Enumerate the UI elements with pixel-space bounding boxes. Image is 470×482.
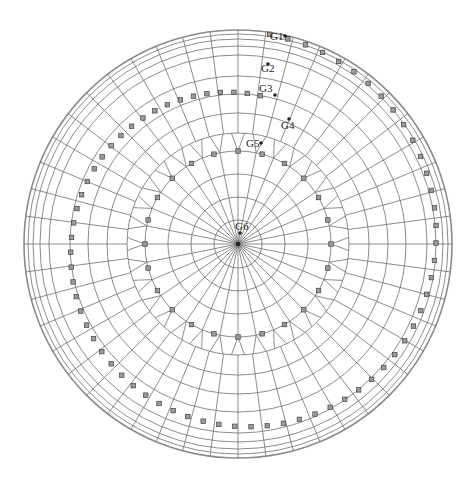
node-marker-icon: [71, 280, 76, 285]
node-marker-icon: [205, 91, 210, 96]
node-marker-icon: [316, 195, 321, 200]
node-marker-icon: [69, 265, 74, 270]
mesh-spoke: [87, 93, 160, 166]
mesh-transition-element: [128, 259, 147, 272]
node-marker-icon: [212, 152, 217, 157]
mesh-transition-element: [142, 296, 160, 311]
node-marker-icon: [402, 339, 407, 344]
node-marker-icon: [245, 91, 250, 96]
node-marker-icon: [189, 161, 194, 166]
node-marker-icon: [100, 349, 105, 354]
node-marker-icon: [424, 171, 429, 176]
mesh-transition-element: [253, 335, 266, 354]
mesh-diagram: G1 G2 G3 G4 G5 G6: [0, 0, 470, 482]
node-marker-icon: [68, 250, 73, 255]
node-marker-icon: [429, 188, 434, 193]
mesh-transition-element: [171, 321, 186, 339]
node-marker-icon: [265, 423, 270, 428]
node-marker-icon: [155, 288, 160, 293]
node-marker-icon: [425, 292, 430, 297]
node-marker-icon: [356, 388, 361, 393]
node-marker-icon: [381, 365, 386, 370]
gauge-dot-icon: [273, 93, 277, 97]
node-marker-icon: [131, 383, 136, 388]
node-marker-icon: [329, 242, 334, 247]
mesh-transition-element: [329, 259, 348, 272]
node-marker-icon: [119, 373, 124, 378]
gauge-label: G5: [246, 137, 260, 149]
mesh-transition-element: [315, 296, 333, 311]
node-marker-icon: [320, 50, 325, 55]
mesh-spoke: [53, 300, 142, 352]
node-marker-icon: [79, 193, 84, 198]
mesh-transition-element: [127, 237, 145, 250]
gauge-label: G4: [281, 119, 295, 131]
node-marker-icon: [302, 308, 307, 313]
node-marker-icon: [91, 336, 96, 341]
node-marker-icon: [326, 218, 331, 223]
node-marker-icon: [171, 408, 176, 413]
node-marker-icon: [316, 288, 321, 293]
node-marker-icon: [109, 144, 114, 149]
node-marker-icon: [71, 221, 76, 226]
node-marker-icon: [233, 424, 238, 429]
node-marker-icon: [155, 195, 160, 200]
node-marker-icon: [249, 424, 254, 429]
node-marker-icon: [170, 308, 175, 313]
mesh-transition-element: [324, 196, 343, 209]
node-marker-icon: [92, 167, 97, 172]
gauge-label: G3: [259, 82, 273, 94]
node-marker-icon: [411, 324, 416, 329]
node-marker-icon: [434, 223, 439, 228]
node-marker-icon: [303, 43, 308, 48]
node-marker-icon: [302, 176, 307, 181]
node-marker-icon: [411, 138, 416, 143]
mesh-transition-element: [190, 139, 203, 158]
node-marker-icon: [157, 401, 162, 406]
mesh-spoke: [316, 322, 389, 395]
node-marker-icon: [212, 332, 217, 337]
node-marker-icon: [282, 161, 287, 166]
mesh-transition-element: [329, 216, 348, 229]
node-marker-icon: [74, 294, 79, 299]
node-marker-icon: [236, 149, 241, 154]
node-marker-icon: [170, 176, 175, 181]
node-marker-icon: [129, 124, 134, 128]
node-marker-icon: [85, 179, 90, 184]
node-marker-icon: [189, 322, 194, 327]
node-marker-icon: [191, 94, 196, 99]
node-marker-icon: [236, 335, 241, 340]
node-marker-icon: [84, 323, 89, 328]
node-marker-icon: [141, 116, 146, 121]
node-marker-icon: [75, 206, 80, 211]
mesh-transition-element: [133, 280, 152, 293]
node-marker-icon: [78, 309, 83, 314]
node-marker-icon: [366, 81, 371, 86]
mesh-spoke: [172, 244, 238, 310]
node-marker-icon: [69, 235, 74, 240]
mesh-spoke: [267, 351, 294, 450]
node-marker-icon: [419, 308, 424, 313]
node-marker-icon: [401, 122, 406, 127]
node-marker-icon: [432, 258, 437, 263]
node-marker-icon: [286, 37, 291, 42]
gauge-dot-icon: [283, 34, 287, 38]
mesh-spoke: [31, 273, 130, 300]
gauge-g2: G2: [261, 62, 274, 74]
mesh-transition-element: [190, 330, 203, 349]
mesh-spoke: [87, 322, 160, 395]
mesh-transition-element: [128, 216, 147, 229]
mesh-transition-element: [274, 330, 287, 349]
node-marker-icon: [186, 414, 191, 419]
node-marker-icon: [217, 422, 222, 427]
node-marker-icon: [143, 242, 148, 247]
node-marker-icon: [260, 332, 265, 337]
node-marker-icon: [146, 218, 151, 223]
node-marker-icon: [178, 98, 183, 103]
node-marker-icon: [342, 397, 347, 402]
node-marker-icon: [352, 70, 357, 75]
node-marker-icon: [326, 266, 331, 271]
mesh-transition-element: [274, 139, 287, 158]
gauge-label: G2: [261, 62, 274, 74]
node-marker-icon: [258, 93, 263, 98]
